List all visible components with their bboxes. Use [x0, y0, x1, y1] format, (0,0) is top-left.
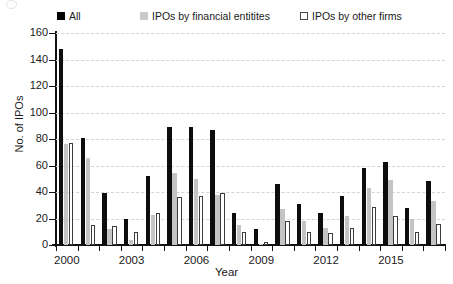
bar-all [102, 193, 106, 245]
bar-group [229, 33, 251, 245]
bar-financial-entities [280, 209, 284, 245]
bar-financial-entities [345, 216, 349, 245]
y-axis-tick [49, 166, 55, 167]
x-axis-tick [315, 246, 316, 251]
bar-group [251, 33, 273, 245]
x-axis-tick [380, 246, 381, 251]
bar-group [423, 33, 445, 245]
x-axis-tick [78, 246, 79, 251]
bar-group [121, 33, 143, 245]
x-axis-tick-label: 2000 [44, 254, 90, 266]
legend-label-other-firms: IPOs by other firms [312, 10, 402, 22]
legend-item-other-firms: IPOs by other firms [300, 8, 402, 24]
x-axis-tick [121, 246, 122, 251]
bar-all [318, 213, 322, 245]
bar-other-firms [134, 232, 138, 245]
x-axis-tick [337, 246, 338, 251]
x-axis-title: Year [0, 266, 453, 278]
bar-all [189, 127, 193, 245]
bar-financial-entities [237, 225, 241, 245]
bar-group [337, 33, 359, 245]
x-axis-tick [186, 246, 187, 251]
bar-other-firms [328, 233, 332, 245]
white-outlined-square-icon [300, 12, 308, 20]
x-axis-tick [423, 246, 424, 251]
x-axis-tick [164, 246, 165, 251]
bar-all [167, 127, 171, 245]
chart-figure: All IPOs by financial entitites IPOs by … [0, 0, 453, 284]
y-axis-tick-label: 80 [2, 133, 48, 144]
bar-other-firms [307, 232, 311, 245]
x-axis-tick [99, 246, 100, 251]
bar-all [362, 168, 366, 245]
bar-other-firms [436, 224, 440, 245]
x-axis-tick-label: 2006 [173, 254, 219, 266]
bar-other-firms [242, 232, 246, 245]
plot-area [56, 33, 445, 245]
bar-financial-entities [259, 244, 263, 245]
bar-group [272, 33, 294, 245]
x-axis-tick [56, 246, 57, 251]
bar-all [405, 208, 409, 245]
x-axis-tick [207, 246, 208, 251]
y-axis-tick [49, 33, 55, 34]
y-axis-tick-label: 20 [2, 213, 48, 224]
x-axis-tick [402, 246, 403, 251]
bar-financial-entities [194, 179, 198, 245]
bar-other-firms [372, 207, 376, 245]
bar-group [164, 33, 186, 245]
x-axis-tick-label: 2009 [238, 254, 284, 266]
x-axis-tick [251, 246, 252, 251]
bar-financial-entities [64, 144, 68, 245]
bar-financial-entities [215, 195, 219, 245]
x-axis-tick [142, 246, 143, 251]
y-axis-tick [49, 60, 55, 61]
x-axis-tick [445, 246, 446, 251]
bar-all [383, 162, 387, 245]
x-axis-tick [272, 246, 273, 251]
y-axis-tick [49, 86, 55, 87]
bar-group [359, 33, 381, 245]
bar-all [146, 176, 150, 245]
bar-all [254, 229, 258, 245]
legend-label-financial: IPOs by financial entitites [152, 10, 270, 22]
bar-financial-entities [431, 201, 435, 245]
bar-other-firms [285, 221, 289, 245]
y-axis-tick [49, 245, 55, 246]
bar-all [275, 184, 279, 245]
y-axis-tick-label: 40 [2, 186, 48, 197]
bar-all [340, 196, 344, 245]
bar-all [297, 204, 301, 245]
bar-group [380, 33, 402, 245]
bar-all [124, 219, 128, 246]
bar-group [99, 33, 121, 245]
x-axis-tick-label: 2003 [109, 254, 155, 266]
y-axis-tick [49, 113, 55, 114]
bar-other-firms [199, 196, 203, 245]
y-axis-tick [49, 139, 55, 140]
bar-other-firms [350, 228, 354, 245]
y-axis-tick-label: 140 [2, 54, 48, 65]
bar-group [207, 33, 229, 245]
black-filled-square-icon [57, 12, 65, 20]
x-axis-tick-label: 2012 [303, 254, 349, 266]
bar-other-firms [393, 216, 397, 245]
bar-other-firms [220, 193, 224, 245]
bar-group [142, 33, 164, 245]
y-axis-title: No. of IPOs [13, 74, 25, 174]
bar-other-firms [156, 213, 160, 245]
bar-financial-entities [367, 188, 371, 245]
bar-group [315, 33, 337, 245]
bar-other-firms [264, 242, 268, 245]
chart-legend: All IPOs by financial entitites IPOs by … [0, 6, 453, 28]
gray-filled-square-icon [140, 12, 148, 20]
bar-other-firms [91, 225, 95, 245]
legend-item-all: All [57, 8, 81, 24]
bar-all [81, 138, 85, 245]
bar-all [426, 181, 430, 245]
x-axis-tick-label: 2015 [368, 254, 414, 266]
bar-all [59, 49, 63, 245]
bar-financial-entities [107, 229, 111, 245]
y-axis-tick-label: 60 [2, 160, 48, 171]
bar-other-firms [69, 143, 73, 245]
